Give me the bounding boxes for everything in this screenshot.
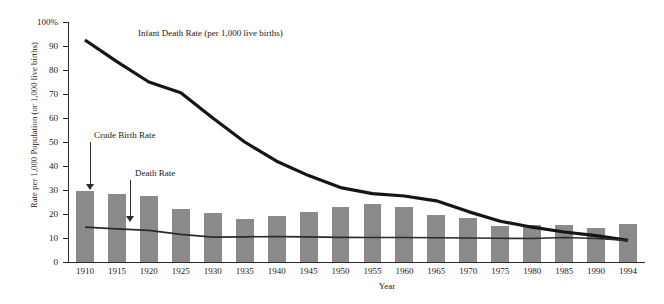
annotation-death-rate: Death Rate: [135, 168, 175, 178]
y-tick-mark: [63, 262, 69, 263]
x-tick-label: 1940: [268, 266, 286, 276]
x-tick-label: 1994: [619, 266, 637, 276]
y-tick-label: 70: [24, 89, 58, 99]
line-infant-death-rate: [85, 40, 628, 240]
annotation-crude-birth-rate: Crude Birth Rate: [94, 130, 156, 140]
x-tick-label: 1990: [587, 266, 605, 276]
y-tick-mark: [63, 70, 69, 71]
x-axis-line: [68, 262, 645, 263]
x-tick-label: 1975: [491, 266, 509, 276]
chart-canvas: Rate per 1,000 Population (or 1,000 live…: [0, 0, 664, 304]
x-tick-label: 1920: [140, 266, 158, 276]
y-tick-label: 20: [24, 209, 58, 219]
y-tick-mark: [63, 214, 69, 215]
x-axis-label: Year: [0, 281, 664, 291]
x-tick-label: 1915: [108, 266, 126, 276]
arrow-down-icon-crude-birth-rate: [86, 142, 95, 190]
x-tick-label: 1925: [172, 266, 190, 276]
y-tick-label: 50: [24, 137, 58, 147]
x-tick-label: 1935: [236, 266, 254, 276]
y-tick-label: 40: [24, 161, 58, 171]
y-tick-mark: [63, 190, 69, 191]
arrow-down-icon-death-rate: [126, 180, 135, 222]
y-tick-mark: [63, 118, 69, 119]
y-tick-mark: [63, 166, 69, 167]
x-tick-label: 1910: [76, 266, 94, 276]
y-tick-mark: [63, 142, 69, 143]
x-tick-label: 1955: [363, 266, 381, 276]
x-tick-label: 1970: [459, 266, 477, 276]
y-tick-label: 0: [24, 257, 58, 267]
plot-area: [69, 22, 644, 262]
x-tick-label: 1950: [332, 266, 350, 276]
y-tick-label: 90: [24, 41, 58, 51]
arrow-head: [126, 216, 134, 222]
arrow-shaft: [90, 142, 91, 184]
x-tick-label: 1930: [204, 266, 222, 276]
x-tick-label: 1965: [427, 266, 445, 276]
y-tick-mark: [63, 22, 69, 23]
y-tick-label: 60: [24, 113, 58, 123]
y-tick-mark: [63, 94, 69, 95]
annotation-infant-death-rate: Infant Death Rate (per 1,000 live births…: [138, 28, 283, 38]
y-axis-tick-labels: 100%9080706050403020100: [22, 0, 58, 304]
x-tick-label: 1980: [523, 266, 541, 276]
y-tick-label: 10: [24, 233, 58, 243]
arrow-head: [86, 184, 94, 190]
x-tick-label: 1985: [555, 266, 573, 276]
x-axis-label-text: Year: [379, 281, 396, 291]
x-axis-tick-labels: 1910191519201925193019351940194519501955…: [69, 266, 644, 280]
x-tick-label: 1960: [395, 266, 413, 276]
y-tick-mark: [63, 238, 69, 239]
y-tick-label: 30: [24, 185, 58, 195]
y-tick-label: 100%: [24, 17, 58, 27]
y-tick-label: 80: [24, 65, 58, 75]
line-series-group: [69, 22, 644, 262]
arrow-shaft: [130, 180, 131, 216]
x-tick-label: 1945: [300, 266, 318, 276]
y-tick-mark: [63, 46, 69, 47]
